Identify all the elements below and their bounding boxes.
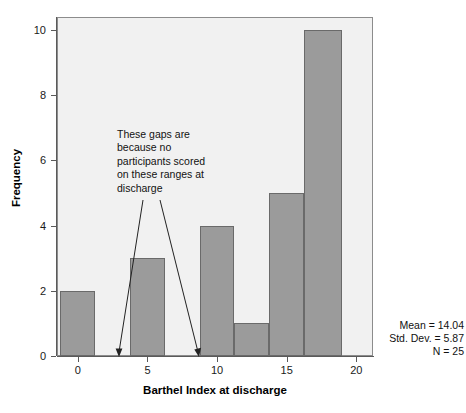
y-tick-mark [51, 291, 56, 292]
histogram-figure: 051015200246810 Barthel Index at dischar… [0, 0, 466, 413]
y-axis-line [56, 17, 57, 356]
annotation-line-4: on these ranges at [117, 168, 217, 181]
y-tick-label: 2 [10, 285, 46, 297]
x-tick-mark [287, 357, 288, 362]
y-tick-label: 8 [10, 89, 46, 101]
stat-n: N = 25 [378, 345, 464, 358]
histogram-bar [269, 193, 304, 356]
histogram-bar [200, 226, 235, 356]
histogram-bar [304, 30, 342, 356]
y-tick-mark [51, 160, 56, 161]
annotation-line-2: because no [117, 141, 217, 154]
annotation-line-3: participants scored [117, 155, 217, 168]
histogram-bar [60, 291, 95, 356]
y-tick-mark [51, 356, 56, 357]
y-tick-label: 0 [10, 350, 46, 362]
y-tick-mark [51, 226, 56, 227]
statistics-block: Mean = 14.04 Std. Dev. = 5.87 N = 25 [378, 319, 464, 358]
x-tick-label: 15 [267, 364, 307, 377]
x-tick-label: 20 [336, 364, 376, 377]
y-tick-mark [51, 30, 56, 31]
x-tick-mark [217, 357, 218, 362]
gap-annotation-text: These gaps are because no participants s… [117, 128, 217, 195]
x-axis-line [57, 356, 374, 357]
y-tick-mark [51, 95, 56, 96]
y-tick-label: 10 [10, 24, 46, 36]
annotation-line-1: These gaps are [117, 128, 217, 141]
x-tick-label: 5 [127, 364, 167, 377]
stat-mean: Mean = 14.04 [378, 319, 464, 332]
y-axis-title: Frequency [10, 118, 22, 238]
histogram-bar [234, 323, 269, 356]
x-tick-label: 0 [58, 364, 98, 377]
x-tick-mark [78, 357, 79, 362]
annotation-line-5: discharge [117, 182, 217, 195]
histogram-bar [130, 258, 165, 356]
x-tick-mark [356, 357, 357, 362]
x-tick-mark [147, 357, 148, 362]
x-tick-label: 10 [197, 364, 237, 377]
stat-std-dev: Std. Dev. = 5.87 [378, 332, 464, 345]
x-axis-title: Barthel Index at discharge [57, 384, 373, 396]
